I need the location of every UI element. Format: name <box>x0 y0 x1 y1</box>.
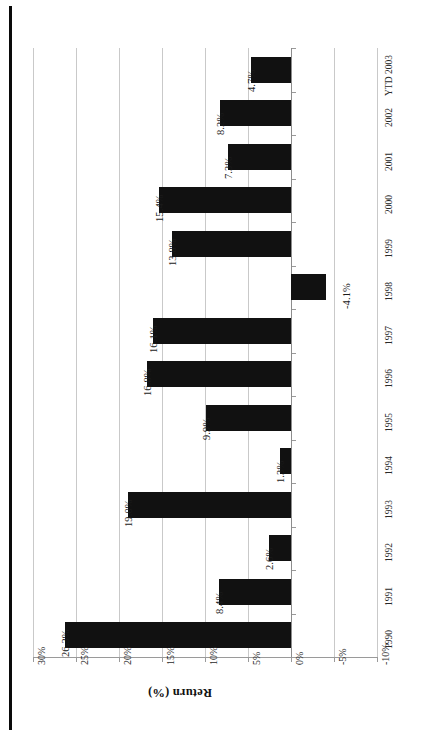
category-axis-tick <box>292 396 296 397</box>
gridline <box>248 48 249 657</box>
value-axis-title: Return (%) <box>148 685 212 700</box>
bar-data-label: 8.2% <box>216 113 227 135</box>
category-axis-tick <box>292 222 296 223</box>
bar <box>172 231 291 257</box>
category-axis-label: 1996 <box>385 369 395 388</box>
category-axis-label: 2000 <box>385 195 395 214</box>
category-axis-label: YTD 2003 <box>385 55 395 96</box>
value-axis-tick <box>291 657 292 662</box>
bar-data-label: -4.1% <box>342 283 353 309</box>
bar-chart-figure: Return (%) 30%25%20%15%10%5%0%-5%-10%26.… <box>0 0 422 736</box>
bar <box>206 405 291 431</box>
category-axis-label: 1997 <box>385 326 395 345</box>
bar-data-label: 2.6% <box>265 548 276 570</box>
value-axis-tick <box>248 657 249 662</box>
gridline <box>76 48 77 657</box>
bar-data-label: 9.9% <box>202 417 213 439</box>
bar-data-label: 1.3% <box>276 461 287 483</box>
bar <box>147 361 291 387</box>
gridline <box>119 48 120 657</box>
value-axis-tick <box>205 657 206 662</box>
bar-data-label: 13.8% <box>168 238 179 266</box>
value-axis-tick-label: -5% <box>338 648 348 665</box>
category-axis-label: 2001 <box>385 152 395 171</box>
category-axis-label: 1995 <box>385 413 395 432</box>
category-axis-tick <box>292 309 296 310</box>
gridline <box>334 48 335 657</box>
gridline <box>377 48 378 657</box>
category-axis-label: 2002 <box>385 108 395 127</box>
value-axis-tick <box>33 657 34 662</box>
category-axis-tick <box>292 570 296 571</box>
category-axis-tick <box>292 135 296 136</box>
category-axis-label: 1992 <box>385 543 395 562</box>
bar-data-label: 7.3% <box>224 156 235 178</box>
bar <box>65 622 291 648</box>
bar-data-label: 15.4% <box>155 195 166 223</box>
category-axis-tick <box>292 92 296 93</box>
bar-data-label: 4.7% <box>247 69 258 91</box>
category-axis-tick <box>292 483 296 484</box>
category-axis-tick <box>292 353 296 354</box>
bar-data-label: 16.1% <box>149 325 160 353</box>
value-axis-tick-label: 30% <box>37 647 47 665</box>
bar <box>220 100 291 126</box>
bar-data-label: 16.8% <box>143 369 154 397</box>
value-axis-tick <box>377 657 378 662</box>
category-axis-tick <box>292 48 296 49</box>
category-axis-tick <box>292 179 296 180</box>
category-axis-label: 1994 <box>385 456 395 475</box>
bar-data-label: 26.3% <box>61 630 72 658</box>
category-axis-tick <box>292 527 296 528</box>
category-axis-label: 1991 <box>385 587 395 606</box>
gridline <box>205 48 206 657</box>
value-axis-tick-label: 10% <box>209 647 219 665</box>
value-axis-tick <box>76 657 77 662</box>
plot-area <box>33 48 377 657</box>
value-axis-tick-label: 15% <box>166 647 176 665</box>
category-axis-label: 1998 <box>385 282 395 301</box>
category-axis-label: 1990 <box>385 630 395 649</box>
bar <box>219 579 291 605</box>
value-axis-tick <box>162 657 163 662</box>
value-axis-tick-label: 25% <box>80 647 90 665</box>
category-axis-tick <box>292 440 296 441</box>
value-axis-tick <box>119 657 120 662</box>
category-axis-label: 1999 <box>385 239 395 258</box>
category-axis-label: 1993 <box>385 500 395 519</box>
bar <box>128 492 291 518</box>
value-axis-tick-label: 0% <box>295 652 305 665</box>
category-axis-tick <box>292 266 296 267</box>
bar <box>159 187 291 213</box>
gridline <box>162 48 163 657</box>
gridline <box>33 48 34 657</box>
bar <box>291 274 326 300</box>
value-axis-tick-label: 5% <box>252 652 262 665</box>
bar-data-label: 8.4% <box>215 591 226 613</box>
value-axis-tick-label: 20% <box>123 647 133 665</box>
bar <box>153 318 291 344</box>
category-axis-tick <box>292 614 296 615</box>
bar <box>228 144 291 170</box>
value-axis-tick <box>334 657 335 662</box>
bar-data-label: 19.0% <box>124 499 135 527</box>
